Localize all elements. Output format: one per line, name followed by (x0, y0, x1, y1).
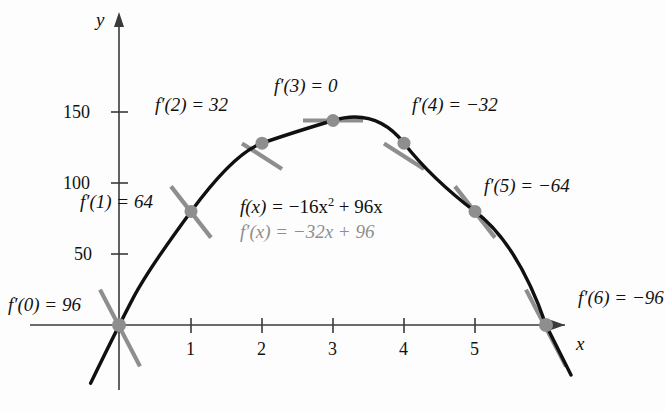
y-tick-label-50: 50 (74, 245, 92, 263)
x-tick-label-4: 4 (399, 340, 408, 358)
derivative-label-x1: f′(1) = 64 (80, 192, 153, 211)
x-tick-label-5: 5 (470, 340, 479, 358)
marker-x4 (398, 137, 411, 150)
marker-x6 (539, 318, 553, 332)
x-tick-label-2: 2 (257, 340, 266, 358)
derivative-equation: f′(x) = −32x + 96 (240, 222, 374, 241)
y-tick-label-150: 150 (63, 103, 90, 121)
x-axis-label: x (576, 334, 584, 353)
marker-x5 (469, 205, 482, 218)
y-tick-label-100: 100 (63, 174, 90, 192)
derivative-label-x6: f′(6) = −96 (578, 288, 664, 307)
derivative-label-x4: f′(4) = −32 (412, 95, 498, 114)
function-equation-term-a: −16x (289, 196, 328, 217)
function-equation-lhs: f(x) = (240, 196, 289, 217)
y-axis-label: y (96, 10, 104, 29)
x-tick-label-1: 1 (186, 340, 195, 358)
derivative-label-x5: f′(5) = −64 (484, 176, 570, 195)
marker-x3 (327, 114, 340, 127)
function-equation: f(x) = −16x2 + 96x (240, 196, 383, 216)
function-equation-term-b: + 96x (334, 196, 383, 217)
x-tick-label-3: 3 (328, 340, 337, 358)
marker-x1 (185, 205, 198, 218)
marker-x0 (112, 318, 126, 332)
derivative-label-x0: f′(0) = 96 (8, 295, 81, 314)
derivative-label-x2: f′(2) = 32 (155, 95, 228, 114)
derivative-label-x3: f′(3) = 0 (274, 76, 337, 95)
marker-x2 (256, 137, 269, 150)
